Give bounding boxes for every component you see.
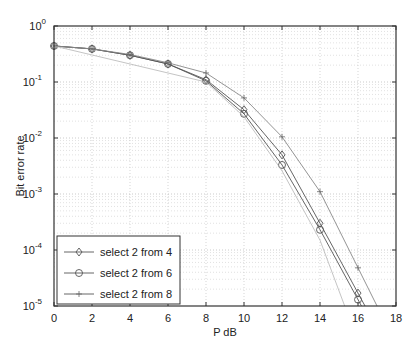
x-tick-label: 6 xyxy=(165,312,171,324)
y-tick-label: 10-1 xyxy=(23,73,43,88)
y-tick-label: 10-5 xyxy=(23,297,43,312)
x-tick-label: 8 xyxy=(203,312,209,324)
x-tick-label: 16 xyxy=(352,312,364,324)
y-tick-label: 10-4 xyxy=(23,241,43,256)
x-tick-label: 14 xyxy=(314,312,326,324)
ber-chart: 024681012141618 10010-110-210-310-410-5 … xyxy=(0,0,415,350)
legend-label-1: select 2 from 4 xyxy=(100,246,172,258)
x-tick-label: 18 xyxy=(390,312,402,324)
x-tick-label: 2 xyxy=(89,312,95,324)
x-tick-label: 10 xyxy=(238,312,250,324)
legend: select 2 from 4 select 2 from 6 select 2… xyxy=(57,236,180,304)
legend-label-2: select 2 from 6 xyxy=(100,267,172,279)
x-tick-label: 4 xyxy=(127,312,133,324)
y-tick-label: 100 xyxy=(29,17,46,32)
y-axis-label: Bit error rate xyxy=(14,135,26,196)
x-tick-label: 0 xyxy=(51,312,57,324)
legend-label-3: select 2 from 8 xyxy=(100,288,172,300)
x-tick-label: 12 xyxy=(276,312,288,324)
x-axis-label: P dB xyxy=(213,326,237,338)
